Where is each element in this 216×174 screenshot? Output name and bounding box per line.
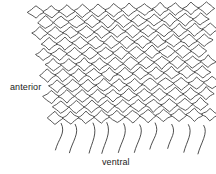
trailing-line — [69, 124, 76, 152]
trailing-line-group — [55, 123, 205, 154]
mesh-cell — [58, 5, 74, 17]
trailing-line — [134, 125, 141, 153]
mesh-cell — [201, 108, 216, 120]
mesh-cell — [63, 27, 79, 39]
mesh-cell — [78, 111, 95, 124]
mesh-cell — [140, 25, 157, 37]
mesh-cell — [136, 4, 153, 16]
trailing-line — [168, 124, 174, 148]
trailing-line — [198, 125, 205, 153]
trailing-line — [55, 123, 62, 150]
label-anterior: anterior — [10, 82, 41, 92]
mesh-cell — [124, 110, 140, 122]
mesh-cell — [159, 46, 175, 58]
mesh-cell — [125, 25, 141, 38]
mesh-cell — [170, 109, 186, 122]
mesh-cell — [27, 6, 44, 18]
mesh-cell — [204, 76, 216, 88]
mesh-cell — [152, 2, 168, 16]
trailing-line — [89, 123, 95, 153]
mesh-cell — [131, 15, 147, 27]
label-ventral: ventral — [102, 157, 130, 167]
trailing-line — [184, 125, 190, 153]
mesh-cell — [53, 16, 69, 28]
mesh-cell — [158, 78, 174, 90]
trailing-line — [102, 123, 109, 154]
mesh-cell-group — [27, 2, 216, 124]
trailing-line — [118, 124, 125, 153]
trailing-line — [150, 123, 157, 149]
mesh-cell — [202, 23, 216, 35]
